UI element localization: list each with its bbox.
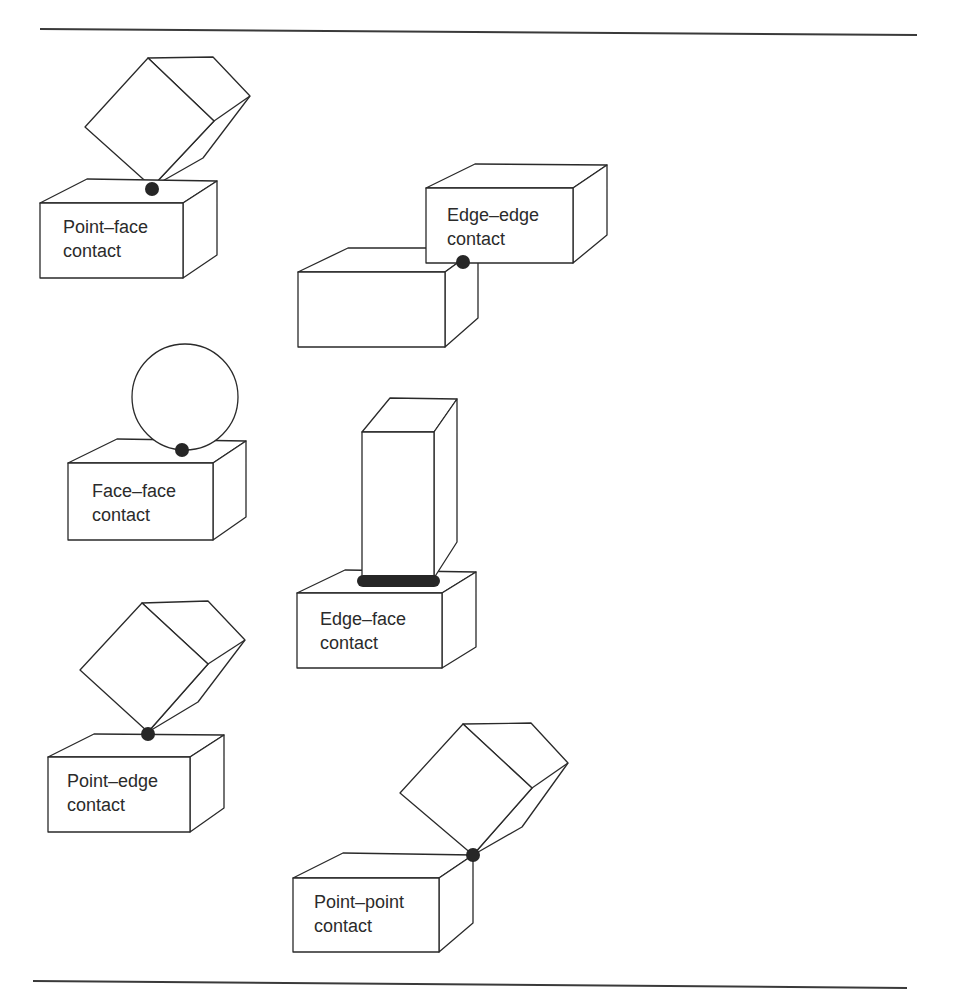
contact-point: [145, 182, 159, 196]
panel-edge-face: Edge–face contact: [297, 398, 476, 668]
tall-block: [362, 398, 457, 580]
label-line-1: Point–face: [63, 217, 148, 237]
contact-point: [141, 727, 155, 741]
contact-types-diagram: Point–face contact Edge–edge contact Fac…: [0, 0, 955, 1006]
label-line-2: contact: [320, 633, 378, 653]
panel-point-point: Point–point contact: [293, 723, 568, 952]
sphere: [132, 344, 238, 450]
panel-point-face: Point–face contact: [40, 57, 250, 278]
tilted-cube: [80, 601, 245, 732]
contact-point: [175, 443, 189, 457]
label-line-2: contact: [67, 795, 125, 815]
label-line-1: Edge–face: [320, 609, 406, 629]
label-line-2: contact: [314, 916, 372, 936]
label-line-2: contact: [63, 241, 121, 261]
label-line-1: Point–point: [314, 892, 404, 912]
label-line-1: Edge–edge: [447, 205, 539, 225]
panel-point-edge: Point–edge contact: [48, 601, 245, 832]
contact-point: [456, 255, 470, 269]
contact-edge: [357, 575, 440, 587]
tilted-cube: [85, 57, 250, 187]
bottom-rule: [33, 981, 907, 988]
contact-point: [466, 848, 480, 862]
panel-edge-edge: Edge–edge contact: [298, 164, 607, 347]
label-line-1: Point–edge: [67, 771, 158, 791]
top-rule: [40, 29, 917, 35]
panel-face-face: Face–face contact: [68, 344, 246, 540]
label-line-1: Face–face: [92, 481, 176, 501]
label-line-2: contact: [447, 229, 505, 249]
tilted-cube: [400, 723, 568, 855]
label-line-2: contact: [92, 505, 150, 525]
